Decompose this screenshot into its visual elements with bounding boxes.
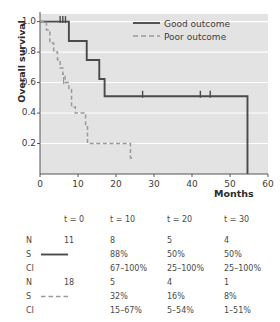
y-tick-label: 0.4	[14, 107, 36, 117]
table-cell-value: 4	[167, 278, 172, 287]
table-cell-value: 5	[110, 278, 115, 287]
table-cell-value: 50%	[167, 250, 185, 259]
table-cell-value: 8	[110, 236, 115, 245]
x-tick-label: 20	[104, 179, 128, 189]
table-cell-value: 25–100%	[224, 264, 261, 273]
table-cell-value: 5	[167, 236, 172, 245]
table-column-header: t = 0	[64, 215, 84, 224]
x-tick-label: 60	[256, 179, 280, 189]
table-cell-value: 25–100%	[167, 264, 204, 273]
table-cell-value: 8%	[224, 292, 237, 301]
table-cell-value: 88%	[110, 250, 128, 259]
table-column-header: t = 20	[167, 215, 192, 224]
table-column-header: t = 30	[224, 215, 249, 224]
table-cell-value: 5–54%	[167, 306, 194, 315]
table-row-label: CI	[26, 306, 34, 315]
table-cell-value: 15–67%	[110, 306, 142, 315]
table-row-label: N	[26, 236, 32, 245]
y-tick-label: 1.0	[14, 16, 36, 26]
table-cell-value: 1	[224, 278, 229, 287]
y-axis-title: Overall survival	[16, 17, 27, 107]
table-cell-value: 32%	[110, 292, 128, 301]
x-tick-label: 40	[180, 179, 204, 189]
legend-label-good-outcome: Good outcome	[164, 19, 230, 29]
survival-chart: Overall survival Months 1.00.80.60.40.2 …	[0, 0, 280, 200]
x-axis-title: Months	[214, 188, 254, 199]
y-tick-label: 0.8	[14, 46, 36, 56]
table-cell-value: 11	[64, 236, 74, 245]
table-row-label: S	[26, 292, 31, 301]
risk-table: t = 0t = 10t = 20t = 30N11854S88%50%50%C…	[0, 200, 280, 322]
table-column-header: t = 10	[110, 215, 135, 224]
x-tick-label: 30	[142, 179, 166, 189]
legend-label-poor-outcome: Poor outcome	[164, 32, 226, 42]
table-row-label: S	[26, 250, 31, 259]
plot-canvas	[0, 0, 280, 200]
table-cell-value: 16%	[167, 292, 185, 301]
table-cell-value: 50%	[224, 250, 242, 259]
table-row-label: CI	[26, 264, 34, 273]
x-tick-label: 0	[28, 179, 52, 189]
x-tick-label: 50	[218, 179, 242, 189]
table-cell-value: 1–51%	[224, 306, 251, 315]
y-tick-label: 0.2	[14, 138, 36, 148]
table-row-label: N	[26, 278, 32, 287]
y-tick-label: 0.6	[14, 77, 36, 87]
table-cell-value: 4	[224, 236, 229, 245]
table-cell-value: 18	[64, 278, 74, 287]
kaplan-meier-figure: Overall survival Months 1.00.80.60.40.2 …	[0, 0, 280, 322]
table-cell-value: 67–100%	[110, 264, 147, 273]
x-tick-label: 10	[66, 179, 90, 189]
